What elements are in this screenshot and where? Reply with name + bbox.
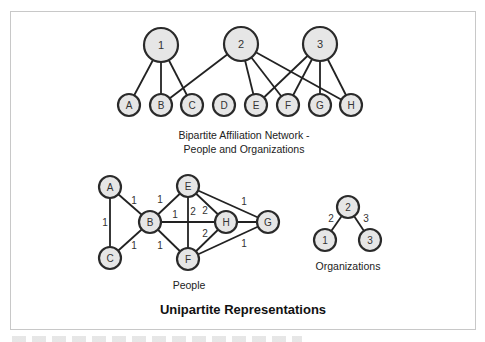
person-node-b: B [150,94,172,116]
bipartite-organization-nodes: 123 [144,27,337,62]
node-label: H [222,217,229,228]
edge-weight: 2 [202,205,208,216]
person-node-g: G [257,211,279,233]
person-node-e: E [245,94,267,116]
person-node-h: H [340,94,362,116]
node-label: C [188,100,195,111]
edge-weight: 1 [241,196,247,207]
edge-weight: 1 [241,238,247,249]
edge-weight: 2 [190,206,196,217]
edge-weight: 1 [102,217,108,228]
org-node-2: 2 [224,27,258,61]
person-node-e: E [177,175,199,197]
org-node-3: 3 [303,27,337,61]
node-label: 2 [238,38,244,50]
org-node-1: 1 [314,229,336,251]
node-label: G [264,217,272,228]
node-label: F [285,100,291,111]
node-label: E [253,100,260,111]
node-label: B [158,100,165,111]
edge-weight: 1 [131,240,137,251]
person-node-d: D [213,94,235,116]
node-label: 2 [345,202,351,213]
node-label: 1 [158,39,164,51]
person-node-c: C [99,247,121,269]
person-node-a: A [118,94,140,116]
person-node-b: B [139,211,161,233]
cut-off-figure-caption [12,336,302,342]
node-label: 1 [322,235,328,246]
person-node-a: A [99,176,121,198]
person-node-f: F [277,94,299,116]
node-label: F [185,254,191,265]
node-label: H [347,100,354,111]
edge-weight: 3 [363,213,369,224]
org-node-1: 1 [144,28,178,62]
node-label: A [126,100,133,111]
org-node-3: 3 [359,229,381,251]
bipartite-caption-line2: People and Organizations [184,143,305,155]
org-node-2: 2 [337,196,359,218]
edge-weight: 1 [172,209,178,220]
node-label: D [220,100,227,111]
edge-weight: 2 [202,228,208,239]
node-label: B [147,217,154,228]
person-node-c: C [181,94,203,116]
bipartite-caption-line1: Bipartite Affiliation Network - [178,129,310,141]
node-label: C [106,253,113,264]
person-node-g: G [309,94,331,116]
node-label: A [107,182,114,193]
unipartite-title: Unipartite Representations [160,302,326,317]
person-node-h: H [215,211,237,233]
node-label: E [185,181,192,192]
edge-weight: 2 [328,213,334,224]
edge-weight: 1 [131,195,137,206]
bipartite-people-nodes: ABCDEFGH [118,94,362,116]
node-label: G [316,100,324,111]
node-label: 3 [367,235,373,246]
people-caption: People [173,279,206,291]
organizations-caption: Organizations [316,260,381,272]
affiliation-network-diagram: 123 ABCDEFGH Bipartite Affiliation Netwo… [0,0,485,342]
edge-weight: 1 [157,240,163,251]
org-graph-nodes: 213 [314,196,381,251]
node-label: 3 [317,38,323,50]
edge-weight: 1 [157,194,163,205]
person-node-f: F [177,248,199,270]
